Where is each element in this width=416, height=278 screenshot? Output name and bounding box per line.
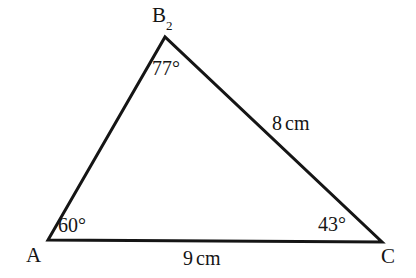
- triangle-diagram: A B2 C 60° 77° 43° 9cm 8cm: [0, 0, 416, 278]
- vertex-label-a: A: [26, 245, 41, 266]
- angle-label-at-b2: 77°: [152, 58, 180, 78]
- side-bc-value: 8: [272, 112, 282, 134]
- side-label-ac: 9cm: [183, 248, 220, 268]
- angle-label-at-c: 43°: [318, 214, 346, 234]
- side-ac-unit: cm: [196, 247, 220, 269]
- angle-label-at-a: 60°: [58, 215, 86, 235]
- side-bc-unit: cm: [285, 112, 309, 134]
- side-ac-value: 9: [183, 247, 193, 269]
- triangle-outline-svg: [0, 0, 416, 278]
- vertex-label-b2: B2: [152, 5, 173, 29]
- vertex-label-c: C: [381, 246, 395, 267]
- side-label-bc: 8cm: [272, 113, 309, 133]
- vertex-b-letter: B: [152, 3, 166, 27]
- vertex-b-subscript: 2: [166, 18, 173, 33]
- triangle-shape: [48, 37, 382, 242]
